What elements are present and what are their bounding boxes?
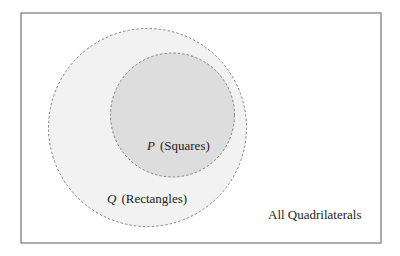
set-p-name: (Squares) — [160, 138, 210, 153]
universe-label: All Quadrilaterals — [268, 208, 362, 221]
set-p-variable: P — [147, 138, 155, 153]
set-q-variable: Q — [107, 191, 116, 206]
set-q-name: (Rectangles) — [121, 191, 187, 206]
set-p-squares-circle — [111, 53, 235, 177]
venn-diagram: P(Squares) Q(Rectangles) All Quadrilater… — [0, 0, 400, 256]
set-p-label: P(Squares) — [147, 139, 210, 152]
set-q-label: Q(Rectangles) — [107, 192, 187, 205]
